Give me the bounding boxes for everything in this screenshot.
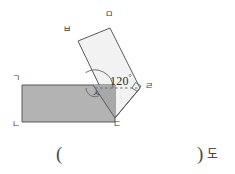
open-parenthesis: (	[56, 144, 62, 163]
angle-measure-value: 120	[110, 74, 129, 88]
vertex-label-giyeok: ㄱ	[12, 74, 20, 83]
vertex-label-siot: ㅅ	[92, 89, 100, 98]
close-parenthesis: )	[197, 144, 203, 163]
vertex-label-nieun: ㄴ	[12, 120, 20, 129]
vertex-label-bieup: ㅂ	[63, 25, 71, 34]
vertex-label-rieul: ㄹ	[145, 82, 153, 91]
degree-symbol: °	[129, 73, 132, 82]
answer-blank-row: ( ) 도	[0, 142, 235, 170]
unit-label-degree: 도	[207, 148, 218, 160]
vertex-label-digeut: ㄷ	[113, 120, 121, 129]
angle-measure-label: 120°	[110, 74, 132, 87]
vertex-label-mieum: ㅁ	[105, 10, 113, 19]
